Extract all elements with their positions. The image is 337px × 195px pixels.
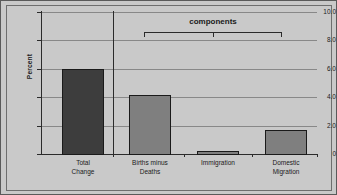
xcat-label-total-change: Total Change bbox=[53, 159, 113, 176]
ytick-label-0: 0 bbox=[308, 150, 336, 157]
ytick-label-2: 2.0 bbox=[308, 122, 336, 129]
y-axis-title: Percent bbox=[26, 47, 33, 87]
gridline-10 bbox=[41, 12, 317, 13]
group-separator-line bbox=[113, 11, 114, 155]
ytick-mark-8 bbox=[37, 40, 41, 41]
bar-total-change bbox=[62, 69, 104, 155]
bar-immigration bbox=[197, 151, 239, 155]
chart-figure: 10.0 8.0 6.0 4.0 2.0 0 Percent Total Cha… bbox=[0, 0, 337, 195]
ytick-label-4: 4.0 bbox=[308, 93, 336, 100]
ytick-label-10: 10.0 bbox=[308, 8, 336, 15]
xtick-mark-4 bbox=[317, 154, 318, 157]
ytick-mark-0 bbox=[37, 154, 41, 155]
components-annotation-label: components bbox=[144, 17, 282, 26]
ytick-mark-6 bbox=[37, 69, 41, 70]
xcat-label-immigration: Immigration bbox=[185, 159, 251, 168]
xcat-label-domestic-migration: Domestic Migration bbox=[253, 159, 319, 176]
components-bracket-tick-right bbox=[281, 32, 282, 37]
ytick-mark-2 bbox=[37, 126, 41, 127]
ytick-mark-10 bbox=[37, 12, 41, 13]
xtick-mark-2 bbox=[184, 154, 185, 157]
components-bracket-tick-middle bbox=[213, 32, 214, 37]
xtick-mark-3 bbox=[252, 154, 253, 157]
y-axis-line bbox=[41, 11, 42, 155]
xtick-mark-1 bbox=[113, 154, 114, 157]
bar-domestic-migration bbox=[265, 130, 307, 155]
components-bracket-tick-left bbox=[144, 32, 145, 37]
ytick-mark-4 bbox=[37, 97, 41, 98]
gridline-8 bbox=[41, 40, 317, 41]
bar-births-minus-deaths bbox=[129, 95, 171, 155]
ytick-label-8: 8.0 bbox=[308, 36, 336, 43]
xcat-label-births-minus-deaths: Births minus Deaths bbox=[117, 159, 183, 176]
ytick-label-6: 6.0 bbox=[308, 65, 336, 72]
